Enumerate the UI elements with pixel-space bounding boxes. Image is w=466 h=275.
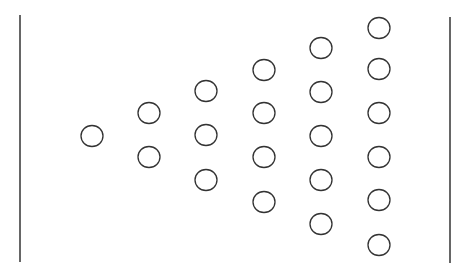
circle-c6-r1 <box>368 18 390 39</box>
circle-c6-r5 <box>368 190 390 211</box>
circle-c4-r1 <box>253 60 275 81</box>
circle-c3-r1 <box>195 81 217 102</box>
circle-group <box>81 18 390 256</box>
circle-c6-r3 <box>368 103 390 124</box>
circle-c5-r3 <box>310 126 332 147</box>
circle-c6-r6 <box>368 235 390 256</box>
circle-c3-r3 <box>195 170 217 191</box>
circle-c6-r2 <box>368 59 390 80</box>
circle-c5-r2 <box>310 82 332 103</box>
circle-c4-r4 <box>253 192 275 213</box>
circle-c3-r2 <box>195 125 217 146</box>
circle-c5-r5 <box>310 214 332 235</box>
circle-c5-r1 <box>310 38 332 59</box>
diagram-canvas <box>0 0 466 275</box>
circle-c5-r4 <box>310 170 332 191</box>
circle-c6-r4 <box>368 147 390 168</box>
circle-c2-r2 <box>138 147 160 168</box>
circle-triangle-diagram <box>0 0 466 275</box>
circle-c4-r2 <box>253 103 275 124</box>
circle-c1-r1 <box>81 126 103 147</box>
circle-c2-r1 <box>138 103 160 124</box>
circle-c4-r3 <box>253 147 275 168</box>
